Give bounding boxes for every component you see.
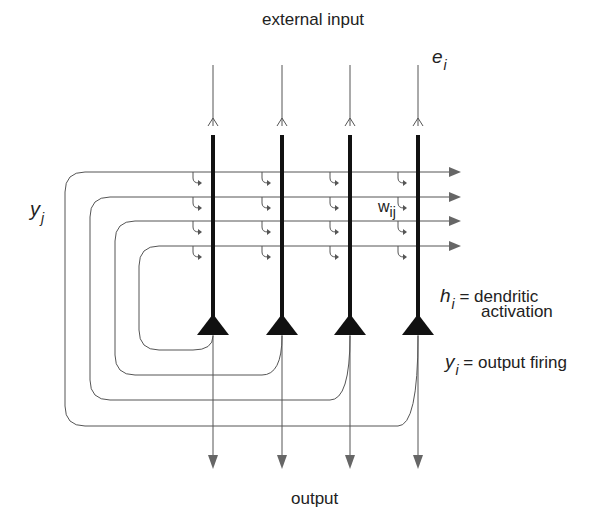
output-arrow-icon <box>413 455 423 469</box>
synapse-arrow-icon <box>403 180 407 186</box>
network-diagram: external input ei yj wij hi = dendritic … <box>0 0 608 529</box>
recurrent-collateral-3 <box>90 197 451 400</box>
synapse-arrow-icon <box>267 254 271 260</box>
synapse-arrow-icon <box>403 229 407 235</box>
dendritic-activation-label-line2: activation <box>481 302 553 322</box>
output-arrow-icon <box>208 455 218 469</box>
soma-triangle-icon <box>334 314 366 335</box>
soma-triangle-icon <box>266 314 298 335</box>
synapse-arrow-icon <box>335 254 339 260</box>
arrowhead-icon <box>449 241 461 251</box>
synapse-arrow-icon <box>335 229 339 235</box>
weight-label: wij <box>377 198 397 216</box>
synapse-arrow-icon <box>267 229 271 235</box>
arrowhead-icon <box>449 192 461 202</box>
input-variable-label: ei <box>432 46 447 68</box>
arrowhead-icon <box>449 167 461 177</box>
output-firing-label: yi = output firing <box>445 351 567 373</box>
synapse-arrow-icon <box>335 205 339 211</box>
output-arrow-icon <box>345 455 355 469</box>
soma-triangle-icon <box>197 314 229 335</box>
network-graphic <box>0 0 608 529</box>
synapse-arrow-icon <box>198 254 202 260</box>
synapse-arrow-icon <box>403 205 407 211</box>
synapse-arrow-icon <box>335 180 339 186</box>
synapse-arrow-icon <box>198 205 202 211</box>
synapse-arrow-icon <box>198 229 202 235</box>
external-input-label: external input <box>262 10 364 30</box>
synapse-arrow-icon <box>403 254 407 260</box>
synapse-arrow-icon <box>267 180 271 186</box>
synapse-arrow-icon <box>198 180 202 186</box>
synapse-arrow-icon <box>267 205 271 211</box>
arrowhead-icon <box>449 216 461 226</box>
output-label: output <box>291 489 338 509</box>
recurrent-variable-label: yj <box>30 198 44 221</box>
soma-triangle-icon <box>402 314 434 335</box>
output-arrow-icon <box>277 455 287 469</box>
